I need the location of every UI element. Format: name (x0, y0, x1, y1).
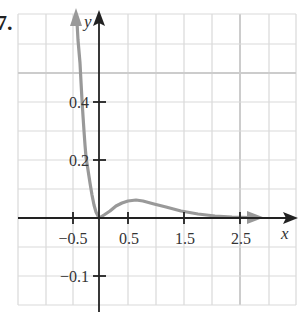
y-tick-label: 0.2 (69, 152, 89, 169)
x-tick-label: −0.5 (58, 230, 87, 247)
problem-label: 7. (0, 10, 13, 35)
x-tick-label: 1.5 (175, 230, 195, 247)
graph-figure: 7. (0, 0, 305, 320)
x-tick-label: 0.5 (119, 230, 139, 247)
x-tick-label: 2.5 (231, 230, 251, 247)
axes (18, 22, 288, 312)
x-axis-label: x (280, 224, 289, 243)
y-tick-label: 0.4 (69, 94, 89, 111)
grid (18, 14, 296, 305)
y-axis-label: y (82, 12, 92, 31)
y-tick-label: −0.1 (60, 268, 89, 285)
curve-up-arrow-icon (70, 8, 82, 26)
